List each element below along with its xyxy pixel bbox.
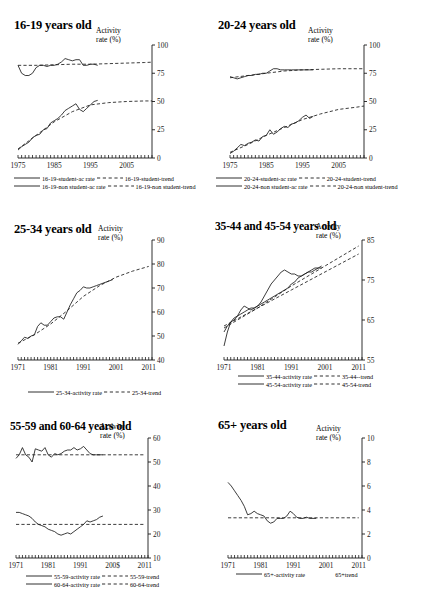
legend-dashed-swatch	[104, 389, 130, 395]
svg-text:90: 90	[157, 236, 165, 245]
chart-panel-p35-44-45-54: 35-44 and 45-54 years oldActivityrate (%…	[212, 200, 424, 400]
series-line	[18, 101, 152, 149]
svg-text:1985: 1985	[259, 161, 274, 170]
legend-dashed-swatch	[314, 381, 340, 387]
legend-label-dashed: 45-54-trend	[342, 381, 371, 388]
svg-text:2011: 2011	[141, 363, 156, 372]
svg-text:75: 75	[369, 69, 377, 78]
svg-text:50: 50	[369, 97, 377, 106]
svg-text:2: 2	[367, 530, 371, 539]
svg-text:100: 100	[369, 41, 380, 50]
series-line	[230, 69, 364, 78]
plot-area: 5565758519711981199120012011	[212, 200, 424, 400]
legend-solid-swatch	[14, 175, 40, 181]
svg-text:2011: 2011	[351, 561, 366, 570]
svg-text:1991: 1991	[76, 363, 91, 372]
chart-panel-p20-24: 20-24 years oldActivityrate (%)025507510…	[212, 0, 424, 200]
series-line	[16, 446, 103, 462]
svg-text:40: 40	[157, 356, 165, 365]
svg-text:0: 0	[157, 154, 161, 163]
series-line	[230, 106, 364, 152]
legend-row: 20-24-student-ac rate20-24-student-trend	[216, 174, 400, 182]
svg-text:0: 0	[369, 154, 373, 163]
legend-row: 20-24-non student-ac rate20-24-non stude…	[216, 182, 400, 190]
series-line	[224, 246, 359, 328]
svg-text:2001: 2001	[109, 363, 124, 372]
chart-legend: 35-44-activity rate35-44--trend45-54-act…	[238, 372, 375, 388]
svg-text:1975: 1975	[11, 161, 26, 170]
legend-row: 45-54-activity rate45-54-trend	[238, 380, 375, 388]
plot-area: 02550751001975198519952005	[0, 0, 212, 200]
legend-row: 60-64-activity rate60-64-trend	[26, 580, 161, 588]
svg-text:1971: 1971	[9, 561, 24, 570]
svg-text:100: 100	[157, 41, 168, 50]
svg-text:80: 80	[157, 260, 165, 269]
svg-text:2005: 2005	[331, 161, 346, 170]
svg-text:70: 70	[157, 284, 165, 293]
svg-text:1975: 1975	[223, 161, 238, 170]
legend-label-solid: 45-54-activity rate	[266, 381, 312, 388]
svg-text:200$: 200$	[105, 561, 120, 570]
legend-label-solid: 35-44-activity rate	[266, 373, 312, 380]
series-line	[18, 266, 149, 343]
legend-row: 25-34-activity rate25-34-trend	[28, 388, 163, 396]
svg-text:25: 25	[369, 125, 377, 134]
legend-dashed-swatch	[108, 183, 134, 189]
legend-label-solid: 20-24-student-ac rate	[244, 175, 297, 182]
svg-text:0: 0	[367, 554, 371, 563]
legend-solid-swatch	[28, 389, 54, 395]
plot-area: 40506070809019711981199120012011	[0, 200, 212, 400]
svg-text:6: 6	[367, 482, 371, 491]
svg-text:1971: 1971	[217, 363, 232, 372]
legend-label-dashed: 65+trend	[335, 571, 357, 578]
svg-text:50: 50	[157, 97, 165, 106]
legend-label-solid: 16-19-non student-ac rate	[42, 183, 106, 190]
svg-text:50: 50	[153, 458, 161, 467]
chart-panel-p65plus: 65+ years oldActivityrate (%)02468101971…	[212, 400, 424, 605]
chart-legend: 25-34-activity rate25-34-trend	[28, 388, 163, 396]
legend-dashed-swatch	[299, 175, 325, 181]
legend-solid-swatch	[238, 373, 264, 379]
legend-label-solid: 60-64-activity rate	[54, 581, 100, 588]
series-line	[230, 115, 313, 153]
svg-text:50: 50	[157, 332, 165, 341]
legend-label-solid: 20-24-non student-ac rate	[244, 183, 308, 190]
svg-text:1991: 1991	[73, 561, 88, 570]
legend-dashed-swatch	[310, 183, 336, 189]
svg-text:2011: 2011	[138, 561, 153, 570]
legend-dashed-swatch	[97, 175, 123, 181]
legend-row: 55-59-activity rate55-59-trend	[26, 572, 161, 580]
svg-text:1995: 1995	[83, 161, 98, 170]
legend-label-dashed: 25-34-trend	[132, 389, 161, 396]
legend-dashed-swatch	[102, 573, 128, 579]
series-line	[18, 100, 98, 150]
chart-legend: 65+-activity rate65+trend	[236, 570, 360, 578]
svg-text:60: 60	[157, 308, 165, 317]
chart-panel-p55-64: 55-59 and 60-64 years oldActivityrate (%…	[0, 400, 212, 605]
chart-legend: 55-59-activity rate55-59-trend60-64-acti…	[26, 572, 161, 588]
legend-dashed-swatch	[102, 581, 128, 587]
svg-text:55: 55	[367, 356, 375, 365]
legend-solid-swatch	[26, 581, 52, 587]
plot-area: 02550751001975198519952005	[212, 0, 424, 200]
series-line	[228, 482, 316, 523]
legend-solid-swatch	[14, 183, 40, 189]
legend-solid-swatch	[236, 571, 262, 577]
legend-label-dashed: 16-19-student-trend	[125, 175, 174, 182]
legend-label-dashed: 35-44--trend	[342, 373, 373, 380]
series-line	[224, 254, 359, 326]
svg-text:85: 85	[367, 236, 375, 245]
svg-text:1991: 1991	[286, 561, 301, 570]
legend-row: 16-19-non student-ac rate16-19-non stude…	[14, 182, 198, 190]
svg-text:1985: 1985	[47, 161, 62, 170]
chart-panel-p16-19: 16-19 years oldActivityrate (%)025507510…	[0, 0, 212, 200]
legend-label-solid: 55-59-activity rate	[54, 573, 100, 580]
series-line	[16, 512, 103, 535]
svg-text:65: 65	[367, 316, 375, 325]
svg-text:20: 20	[153, 530, 161, 539]
svg-text:30: 30	[153, 506, 161, 515]
legend-solid-swatch	[26, 573, 52, 579]
legend-label-solid: 25-34-activity rate	[56, 389, 102, 396]
figure-page: 16-19 years oldActivityrate (%)025507510…	[0, 0, 425, 605]
legend-solid-swatch	[216, 183, 242, 189]
